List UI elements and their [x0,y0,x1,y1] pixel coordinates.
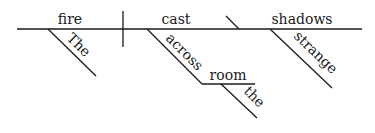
prep-object-word: room [210,67,247,83]
object-divider [226,16,239,29]
subject-word: fire [58,11,82,27]
modifier-word-strange: strange [291,28,341,77]
object-word: shadows [271,11,332,27]
sentence-diagram: fire The cast across room the shadows st… [0,0,375,133]
verb-word: cast [162,11,191,27]
modifier-word-the: The [64,30,94,60]
